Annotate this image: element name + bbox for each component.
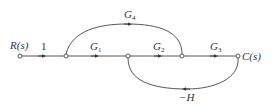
branch-g4 xyxy=(66,24,182,54)
node-output xyxy=(236,54,240,58)
gain-label-1: 1 xyxy=(41,40,47,52)
gain-label-minus-h: −H xyxy=(179,91,195,103)
node-input xyxy=(18,54,22,58)
branch-minus-h xyxy=(128,58,238,89)
node-2 xyxy=(64,54,68,58)
signal-flow-graph: R(s) C(s) 1 G1 G2 G3 G4 −H xyxy=(0,0,273,107)
input-label: R(s) xyxy=(9,39,29,52)
gain-label-g3: G3 xyxy=(210,40,222,54)
gain-label-g2: G2 xyxy=(153,40,165,54)
gain-label-g4: G4 xyxy=(124,8,136,22)
output-label: C(s) xyxy=(242,50,261,63)
node-4 xyxy=(180,54,184,58)
node-3 xyxy=(126,54,130,58)
gain-label-g1: G1 xyxy=(90,40,102,54)
